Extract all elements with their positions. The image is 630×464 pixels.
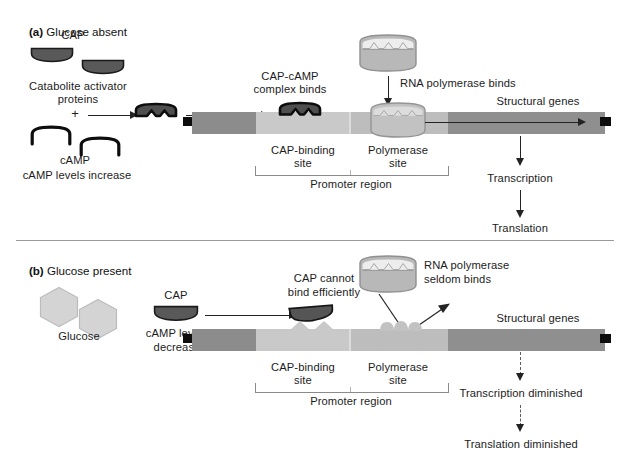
panel-a-transcription-label: Transcription (468, 172, 572, 185)
cap-protein-dome-icon (81, 59, 125, 75)
camp-arch-icon (79, 136, 121, 156)
panel-a-promoter-bracket (255, 166, 449, 176)
cap-binding-site-bumps-icon (289, 320, 335, 332)
rna-polymerase-bound-icon (369, 100, 427, 140)
rna-polymerase-barrel-icon (358, 32, 418, 74)
dna-right-tip (600, 334, 611, 343)
arrow-down-dashed-icon (520, 405, 521, 426)
panel-divider (16, 240, 614, 241)
panel-a-promoter-bracket-tick (350, 170, 351, 175)
panel-a-cap-label: CAP (38, 29, 108, 42)
cap-protein-dome-icon (153, 305, 199, 322)
panel-b-cap-label: CAP (142, 289, 210, 302)
arrow-right-icon (205, 315, 291, 316)
panel-a-translation-label: Translation (468, 222, 572, 235)
dna-segment-polymerase-site (351, 329, 448, 351)
plus-sign: + (68, 107, 82, 120)
arrow-down-icon (516, 158, 524, 166)
cap-camp-complex-binds-label-line1: CAP-cAMP (235, 70, 345, 83)
panel-a-cap-binding-site-label-line1: CAP-binding (248, 144, 358, 157)
cap-camp-complex-bound-icon (278, 101, 322, 119)
panel-b-title: Glucose present (47, 264, 131, 277)
dna-segment-structural-genes (448, 329, 605, 351)
arrow-right-icon (88, 115, 132, 116)
panel-b-structural-genes-label: Structural genes (478, 312, 598, 325)
panel-a-structural-genes-label: Structural genes (478, 95, 598, 108)
panel-b-polymerase-site-label-line1: Polymerase (346, 361, 450, 374)
cap-camp-complex-binds-label-line2: complex binds (235, 83, 345, 96)
panel-b-promoter-bracket-tick (350, 387, 351, 392)
panel-b-promoter-region-label: Promoter region (296, 395, 406, 408)
panel-b-cap-binding-site-label-line1: CAP-binding (248, 361, 358, 374)
camp-levels-increase-label: cAMP levels increase (4, 169, 150, 182)
arrow-down-icon (520, 190, 521, 212)
dna-segment-cap-binding-site (256, 329, 350, 351)
dna-right-tip (600, 117, 611, 126)
cap-protein-dome-icon (30, 47, 74, 63)
dna-segment-upstream (192, 112, 256, 134)
arrow-down-icon (388, 76, 389, 100)
figure-canvas: (a) Glucose absent CAP Catabolite activa… (0, 0, 630, 464)
arrow-down-icon (520, 136, 521, 160)
panel-b-translation-diminished-label: Translation diminished (443, 438, 599, 451)
camp-arch-icon (30, 125, 72, 145)
polymerase-site-bumps-icon (380, 320, 422, 332)
panel-b-transcription-diminished-label: Transcription diminished (443, 387, 599, 400)
panel-a-promoter-region-label: Promoter region (296, 178, 406, 191)
dna-segment-upstream (192, 329, 256, 351)
panel-a-polymerase-site-label-line1: Polymerase (346, 144, 450, 157)
camp-label: cAMP (30, 154, 120, 167)
catabolite-activator-proteins-label-line1: Catabolite activator (6, 80, 150, 93)
panel-b-promoter-bracket (255, 383, 449, 393)
cap-camp-complex-icon (134, 102, 178, 121)
catabolite-activator-proteins-label-line2: proteins (6, 93, 150, 106)
arrow-down-dashed-icon (516, 373, 524, 381)
arrow-down-dashed-icon (516, 424, 524, 432)
arrow-down-dashed-icon (520, 352, 521, 375)
rna-polymerase-seldom-binds-label-line1: RNA polymerase (424, 259, 574, 272)
glucose-label: Glucose (30, 330, 128, 343)
arrow-down-icon (516, 210, 524, 218)
rna-polymerase-seldom-binds-label-line2: seldom binds (424, 273, 574, 286)
rna-polymerase-barrel-icon (358, 253, 418, 295)
glucose-hexagon-icon (39, 286, 79, 328)
transcription-direction-arrow-icon (425, 122, 580, 123)
rna-polymerase-binds-label: RNA polymerase binds (400, 77, 560, 90)
transcription-direction-arrow-icon (578, 118, 586, 126)
panel-b-marker: (b) (29, 264, 44, 277)
